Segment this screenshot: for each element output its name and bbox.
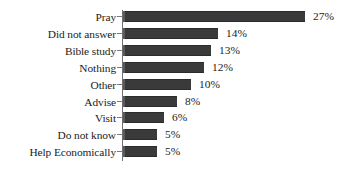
axis-tick [117, 117, 122, 118]
bar-row: Did not answer14% [0, 26, 341, 43]
bar-start-cap [123, 129, 125, 140]
bar-value-label: 13% [219, 44, 240, 57]
category-label: Visit [0, 110, 116, 127]
category-label: Nothing [0, 60, 116, 77]
category-label: Help Economically [0, 144, 116, 161]
bar-row: Advise8% [0, 94, 341, 111]
bar-row: Nothing12% [0, 60, 341, 77]
axis-tick [117, 101, 122, 102]
bar-row: Visit6% [0, 110, 341, 127]
bar [123, 28, 218, 39]
category-label: Did not answer [0, 26, 116, 43]
bar-start-cap [123, 112, 125, 123]
bar [123, 146, 157, 157]
bar [123, 45, 211, 56]
bar-value-label: 14% [226, 27, 247, 40]
bar-fill [123, 45, 211, 56]
bar-fill [123, 146, 157, 157]
bar-fill [123, 129, 157, 140]
axis-tick [117, 16, 122, 17]
category-label: Do not know [0, 127, 116, 144]
axis-tick [117, 33, 122, 34]
axis-tick [117, 67, 122, 68]
bar [123, 79, 191, 90]
bar-value-label: 5% [165, 145, 180, 158]
category-label: Advise [0, 94, 116, 111]
bar-row: Other10% [0, 77, 341, 94]
bar-value-label: 5% [165, 128, 180, 141]
bar-fill [123, 96, 177, 107]
bar-start-cap [123, 79, 125, 90]
bar-start-cap [123, 62, 125, 73]
bar-value-label: 8% [185, 95, 200, 108]
bar [123, 96, 177, 107]
bar-value-label: 27% [313, 10, 334, 23]
bar-start-cap [123, 96, 125, 107]
bar-fill [123, 112, 164, 123]
bar-start-cap [123, 28, 125, 39]
axis-tick [117, 134, 122, 135]
plot-area: Pray27%Did not answer14%Bible study13%No… [0, 0, 341, 172]
bar-value-label: 6% [172, 111, 187, 124]
bar-fill [123, 11, 305, 22]
bar-row: Pray27% [0, 9, 341, 26]
bar-fill [123, 79, 191, 90]
bar [123, 11, 305, 22]
axis-tick [117, 50, 122, 51]
bar-value-label: 12% [212, 61, 233, 74]
bar-row: Help Economically5% [0, 144, 341, 161]
category-label: Bible study [0, 43, 116, 60]
bar-start-cap [123, 11, 125, 22]
bar-start-cap [123, 45, 125, 56]
bar-fill [123, 62, 204, 73]
bar-fill [123, 28, 218, 39]
axis-tick [117, 84, 122, 85]
category-label: Pray [0, 9, 116, 26]
bar [123, 112, 164, 123]
bar-row: Do not know5% [0, 127, 341, 144]
bar [123, 62, 204, 73]
bar [123, 129, 157, 140]
bar-value-label: 10% [199, 78, 220, 91]
bar-start-cap [123, 146, 125, 157]
category-label: Other [0, 77, 116, 94]
axis-tick [117, 151, 122, 152]
bar-row: Bible study13% [0, 43, 341, 60]
bar-chart: Pray27%Did not answer14%Bible study13%No… [0, 0, 341, 172]
